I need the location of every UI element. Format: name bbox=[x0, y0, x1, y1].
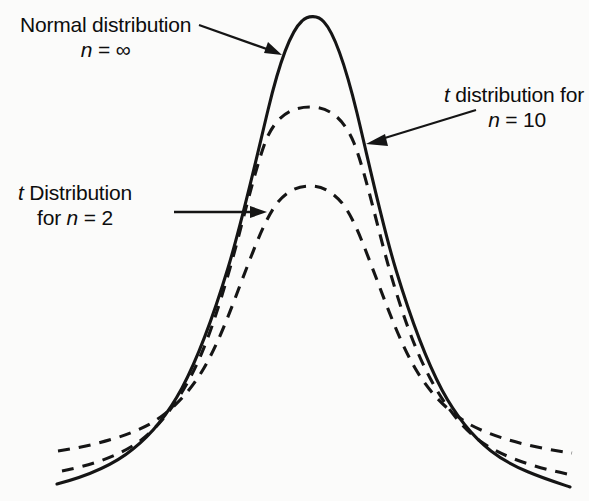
annotation-t2-prefix: for bbox=[37, 206, 67, 229]
distribution-curves-plot bbox=[0, 0, 589, 501]
leader-t-distribution-n2 bbox=[174, 206, 267, 218]
annotation-t10-symbol2: n bbox=[488, 108, 499, 131]
annotation-normal-value: = ∞ bbox=[92, 38, 130, 61]
annotation-t2-symbol2: n bbox=[67, 206, 78, 229]
annotation-t10-line1: t distribution for bbox=[444, 83, 584, 106]
annotation-t10-text: distribution for bbox=[450, 83, 584, 106]
annotation-t-distribution-n2: t Distribution for n = 2 bbox=[18, 180, 132, 230]
curve-t-distribution-n2 bbox=[58, 186, 572, 453]
annotation-t2-line2: for n = 2 bbox=[18, 205, 132, 230]
annotation-normal-distribution: Normal distribution n = ∞ bbox=[20, 12, 191, 62]
annotation-normal-symbol: n bbox=[81, 38, 92, 61]
annotation-t2-text: Distribution bbox=[24, 181, 132, 204]
t-distribution-figure: Normal distribution n = ∞ t distribution… bbox=[0, 0, 589, 501]
curve-t-distribution-n10 bbox=[62, 107, 567, 474]
annotation-normal-line2: n = ∞ bbox=[20, 37, 191, 62]
annotation-normal-line1: Normal distribution bbox=[20, 13, 191, 36]
annotation-t2-value: = 2 bbox=[78, 206, 113, 229]
annotation-t10-line2: n = 10 bbox=[444, 107, 584, 132]
annotation-t-distribution-n10: t distribution for n = 10 bbox=[444, 82, 584, 132]
annotation-t2-line1: t Distribution bbox=[18, 181, 132, 204]
annotation-t10-value: = 10 bbox=[500, 108, 546, 131]
leader-normal-distribution bbox=[199, 25, 282, 55]
